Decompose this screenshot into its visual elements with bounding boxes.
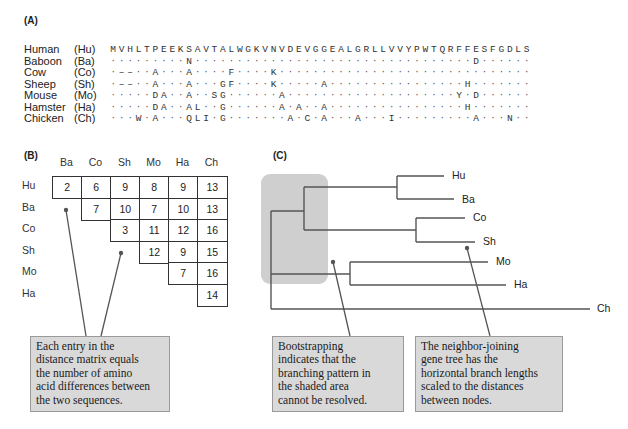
leaf-label-mo: Mo bbox=[496, 255, 511, 267]
callout-text-line: the shaded area bbox=[278, 380, 398, 393]
callout-text-line: between nodes. bbox=[421, 394, 557, 407]
leaf-label-ba: Ba bbox=[462, 193, 475, 205]
callout-text-line: acid differences between bbox=[36, 380, 164, 393]
callout-text-line: the number of amino bbox=[36, 367, 164, 380]
leaf-label-co: Co bbox=[473, 211, 486, 223]
callout-text-line: the two sequences. bbox=[36, 394, 164, 407]
callout-text-line: horizontal branch lengths bbox=[421, 367, 557, 380]
callout-text-line: Each entry in the bbox=[36, 340, 164, 353]
leaf-label-ch: Ch bbox=[597, 302, 610, 314]
callout-text-line: The neighbor-joining bbox=[421, 340, 557, 353]
callout-text-line: indicates that the bbox=[278, 353, 398, 366]
callout-text-line: Bootstrapping bbox=[278, 340, 398, 353]
callout-text-line: gene tree has the bbox=[421, 353, 557, 366]
callout-text-line: distance matrix equals bbox=[36, 353, 164, 366]
callout-text-line: branching pattern in bbox=[278, 367, 398, 380]
callout-bootstrap-explanation: Bootstrappingindicates that thebranching… bbox=[272, 336, 404, 412]
callout-matrix-explanation: Each entry in thedistance matrix equalst… bbox=[30, 336, 170, 412]
callout-text-line: scaled to the distances bbox=[421, 380, 557, 393]
leaf-label-ha: Ha bbox=[514, 278, 527, 290]
leaf-label-sh: Sh bbox=[483, 235, 496, 247]
leaf-label-hu: Hu bbox=[452, 169, 465, 181]
callout-neighbor-joining-explanation: The neighbor-joininggene tree has thehor… bbox=[415, 336, 563, 412]
callout-text-line: cannot be resolved. bbox=[278, 394, 398, 407]
